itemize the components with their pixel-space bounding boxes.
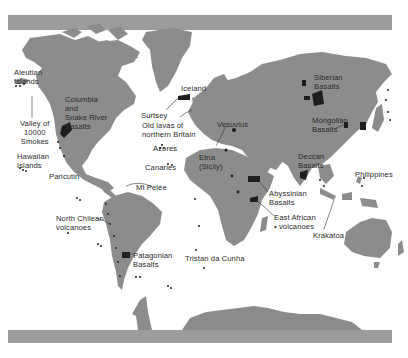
top-frame-bar xyxy=(8,15,392,30)
label-aleutian-islands: Aleutian Islands xyxy=(14,68,42,86)
label-mt-pelee: Mt Pelée xyxy=(136,183,167,192)
label-north-chilean-volcanoes: North Chilean volcanoes xyxy=(56,214,104,232)
label-krakatoa: Krakatoa xyxy=(313,231,344,240)
label-iceland: Iceland xyxy=(181,84,206,93)
greenland xyxy=(142,28,192,92)
label-azores: Azores xyxy=(153,144,177,153)
antarctic-peninsula xyxy=(132,296,152,330)
label-philippines: Philippines xyxy=(355,170,393,179)
label-deccan-basalts: Deccan Basalts xyxy=(298,152,324,170)
label-east-african-volcanoes: East African • volcanoes xyxy=(274,213,316,231)
label-canaries: Canaries xyxy=(145,163,176,172)
south-america xyxy=(102,192,162,290)
label-paricutin: Paricutin xyxy=(49,172,79,181)
label-valley-of-10000-smokes: Valley of 10000 Smokes xyxy=(20,119,49,146)
label-siberian-basalts: Siberian Basalts xyxy=(314,73,343,91)
bottom-frame-bar xyxy=(8,330,392,343)
abyssinian-basalts-lava xyxy=(248,176,260,182)
label-etna-sicily: Etna (Sicily) xyxy=(199,153,223,171)
label-surtsey: Surtsey xyxy=(141,111,167,120)
australia xyxy=(344,218,392,258)
label-tristan-da-cunha: Tristan da Cunha xyxy=(185,254,245,263)
label-columbia-snake-river-basalts: Columbia and Snake River Basalts xyxy=(65,95,107,131)
label-patagonian-basalts: Patagonian Basalts xyxy=(133,251,172,269)
label-old-lavas-northern-britain: Old lavas of northern Britain xyxy=(142,121,196,139)
label-vesuvius: Vesuvius xyxy=(217,120,248,129)
iceland-lava xyxy=(178,94,190,100)
label-mongolian-basalts: Mongolian Basalts xyxy=(312,116,348,134)
antarctica xyxy=(182,306,362,330)
label-hawaiian-islands: Hawaiian Islands xyxy=(17,152,49,170)
label-abyssinian-basalts: Abyssinian Basalts xyxy=(269,189,307,207)
